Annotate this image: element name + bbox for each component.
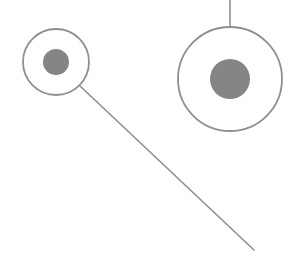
right-node-inner-dot xyxy=(210,59,250,99)
left-node-inner-dot xyxy=(43,49,69,75)
diagram-canvas xyxy=(0,0,299,258)
